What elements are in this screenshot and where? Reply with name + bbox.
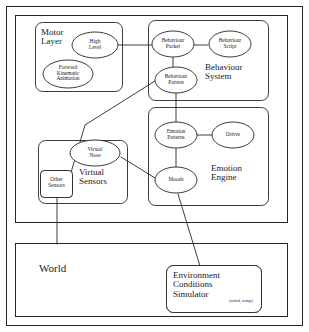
diagram-vector-layer — [0, 0, 309, 332]
node-virtual-nose — [70, 140, 120, 166]
node-high-level — [72, 32, 118, 58]
node-behaviour-packet — [152, 31, 194, 57]
node-behaviour-pattern — [155, 67, 197, 93]
diagram-canvas: Motor Layer High Level Forward Kinematic… — [0, 0, 309, 332]
link-moods-to-environment-simulator — [178, 194, 200, 266]
environment-conditions-simulator-box-fill — [167, 266, 262, 313]
other-sensors-box-fill — [41, 171, 73, 198]
node-drives — [212, 122, 254, 148]
node-forward-kinematic-animation — [43, 60, 93, 88]
link-virtual-nose-to-moods — [121, 157, 155, 178]
node-behaviour-script — [209, 31, 251, 57]
node-emotion-patterns — [155, 122, 197, 148]
node-moods — [155, 167, 197, 193]
